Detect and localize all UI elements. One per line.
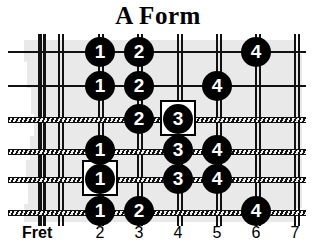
fret-wire <box>58 34 64 226</box>
string-4 <box>8 149 306 155</box>
note-marker[interactable]: 4 <box>202 135 232 165</box>
string-3 <box>8 117 306 123</box>
page-title: A Form <box>0 2 316 30</box>
string-5 <box>8 177 306 183</box>
fret-wire <box>294 34 300 226</box>
note-marker[interactable]: 2 <box>124 71 154 101</box>
fretboard: 1 2 4 1 2 4 2 3 1 3 4 1 3 4 1 2 4 <box>22 40 302 222</box>
note-marker[interactable]: 4 <box>202 164 232 194</box>
note-marker[interactable]: 4 <box>241 37 271 67</box>
fret-number: 5 <box>205 224 229 242</box>
fret-wire <box>216 34 222 226</box>
note-marker[interactable]: 1 <box>85 71 115 101</box>
note-marker-root[interactable]: 3 <box>163 104 193 134</box>
neck-edge-notch <box>22 88 31 114</box>
fret-number: 4 <box>166 224 190 242</box>
note-marker[interactable]: 4 <box>241 196 271 226</box>
fret-axis-label: Fret <box>22 224 52 242</box>
neck-edge-notch <box>22 136 30 160</box>
note-marker[interactable]: 2 <box>124 104 154 134</box>
fret-number: 2 <box>88 224 112 242</box>
guitar-scale-diagram: A Form 1 2 4 <box>0 0 316 250</box>
note-marker[interactable]: 1 <box>85 37 115 67</box>
string-2 <box>8 85 306 87</box>
fret-wire <box>38 34 46 226</box>
neck-edge-notch <box>22 184 28 204</box>
note-marker[interactable]: 4 <box>202 71 232 101</box>
note-marker[interactable]: 2 <box>124 196 154 226</box>
fret-number: 7 <box>283 224 307 242</box>
note-marker[interactable]: 1 <box>85 196 115 226</box>
note-marker[interactable]: 1 <box>85 135 115 165</box>
note-marker[interactable]: 3 <box>163 164 193 194</box>
fret-number-axis: Fret 2 3 4 5 6 7 <box>0 224 316 248</box>
fret-number: 3 <box>127 224 151 242</box>
note-marker-root[interactable]: 1 <box>85 164 115 194</box>
note-marker[interactable]: 2 <box>124 37 154 67</box>
note-marker[interactable]: 3 <box>163 135 193 165</box>
fret-number: 6 <box>244 224 268 242</box>
